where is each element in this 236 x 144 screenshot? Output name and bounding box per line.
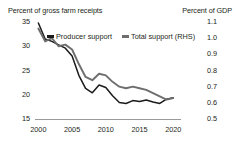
right-tick-0-9: 0.9	[207, 49, 225, 58]
left-axis-title: Percent of gross farm receipts	[8, 6, 102, 15]
right-tick-0-8: 0.8	[207, 66, 225, 75]
legend-label: Total support (RHS)	[131, 32, 195, 41]
x-tick-2010: 2010	[93, 125, 119, 134]
x-tick-2020: 2020	[160, 125, 186, 134]
left-tick-30: 30	[14, 41, 30, 50]
right-axis-title: Percent of GDP	[182, 6, 232, 15]
axis-baseline	[35, 119, 181, 120]
legend-swatch-icon	[47, 35, 54, 37]
right-tick-0-5: 0.5	[207, 114, 225, 123]
legend-item-producer-support: Producer support	[47, 32, 112, 41]
legend-swatch-icon	[122, 35, 129, 37]
x-tick-2000: 2000	[25, 125, 51, 134]
right-tick-1: 1.0	[207, 33, 225, 42]
legend-label: Producer support	[56, 32, 112, 41]
right-tick-0-6: 0.6	[207, 98, 225, 107]
x-tick-2015: 2015	[127, 125, 153, 134]
right-tick-1-1: 1.1	[207, 17, 225, 26]
legend-item-total-support-rhs: Total support (RHS)	[122, 32, 195, 41]
left-tick-20: 20	[14, 90, 30, 99]
chart-legend: Producer supportTotal support (RHS)	[47, 32, 195, 41]
left-tick-35: 35	[14, 17, 30, 26]
left-tick-15: 15	[14, 114, 30, 123]
x-tick-2005: 2005	[59, 125, 85, 134]
right-tick-0-7: 0.7	[207, 82, 225, 91]
left-tick-25: 25	[14, 66, 30, 75]
chart-figure: Percent of gross farm receipts Percent o…	[0, 0, 236, 144]
